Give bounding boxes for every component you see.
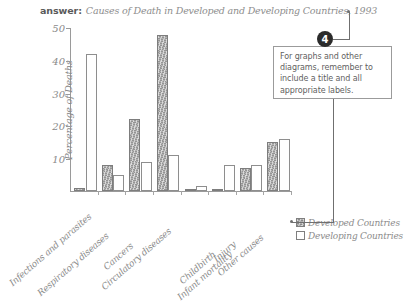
chart-plot-area: Percentage of Deaths 1020304050 [70,28,292,192]
bar-group [182,28,210,191]
y-axis-tick-label: 50 [52,23,65,34]
bar-developed [74,188,85,191]
bar-developing [251,165,262,191]
bar-developing [168,155,179,191]
bar-group [71,28,99,191]
callout-box: For graphs and other diagrams, remember … [273,46,392,99]
answer-label: answer: [40,5,82,16]
bar-developed [157,35,168,191]
bar-developing [196,186,207,191]
bar-group [154,28,182,191]
leader-line-top-horizontal [333,39,350,40]
leader-line-bottom-horizontal [292,222,334,223]
legend-swatch-icon [296,231,305,240]
bar-developing [113,175,124,191]
bar-developing [86,54,97,191]
y-axis-tick-label: 40 [52,55,65,66]
bar-group [209,28,237,191]
bar-developed [267,142,278,191]
bar-group [99,28,127,191]
leader-line-top-vertical [349,12,350,40]
chart-legend: Developed CountriesDeveloping Countries [296,216,404,242]
bar-developed [129,119,140,191]
bar-developing [224,165,235,191]
bar-developed [185,189,196,191]
page-title: Causes of Death in Developed and Develop… [86,5,377,16]
bar-developing [279,139,290,191]
bar-group [237,28,265,191]
legend-label: Developing Countries [308,231,403,241]
bar-series-layer [71,28,292,191]
callout-text: For graphs and other diagrams, remember … [280,51,386,96]
bar-developed [102,165,113,191]
y-axis-tick-label: 10 [52,154,65,165]
title-row: answer: Causes of Death in Developed and… [40,5,370,21]
bar-group [126,28,154,191]
legend-item: Developing Countries [296,229,404,242]
bar-developed [240,168,251,191]
bar-developed [212,189,223,191]
y-axis-tick-label: 30 [52,88,65,99]
leader-dot-bottom [290,220,293,223]
x-axis-category-labels: Infections and parasitesRespiratory dise… [0,192,404,298]
x-axis-label-respiratory-diseases: Respiratory diseases [35,231,110,298]
bar-developing [141,162,152,191]
callout-badge-number: 4 [317,31,333,47]
leader-line-bottom-vertical [333,99,334,223]
y-axis-tick-label: 20 [52,121,65,132]
